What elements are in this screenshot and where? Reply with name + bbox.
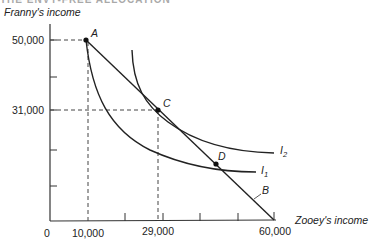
y-axis-label: Franny's income xyxy=(4,6,81,18)
y-ticks xyxy=(50,40,57,186)
point-c-label: C xyxy=(163,97,171,109)
x-tick-29000: 29,000 xyxy=(142,225,174,237)
point-d-marker xyxy=(213,161,218,166)
x-tick-60000: 60,000 xyxy=(259,225,291,237)
indifference-curve-i2 xyxy=(132,50,274,153)
b-label-leader xyxy=(254,194,261,199)
point-d-label: D xyxy=(218,150,226,162)
x-tick-10000: 10,000 xyxy=(72,227,104,239)
point-c-marker xyxy=(155,107,160,112)
y-tick-31000: 31,000 xyxy=(12,104,44,116)
point-a-label: A xyxy=(90,27,98,39)
chart: Franny's income 50,000 31,000 0 10,000 2… xyxy=(0,0,378,244)
curve-label-i2: I2 xyxy=(280,144,288,159)
y-tick-50000: 50,000 xyxy=(12,34,44,46)
x-axis-label: Zooey's income xyxy=(294,214,368,226)
indifference-curve-i1 xyxy=(86,40,256,172)
curve-label-i1: I1 xyxy=(261,164,268,179)
point-a-marker xyxy=(83,37,88,42)
origin-label: 0 xyxy=(44,227,50,239)
curve-label-b: B xyxy=(262,184,269,196)
dashed-guides xyxy=(50,40,158,221)
